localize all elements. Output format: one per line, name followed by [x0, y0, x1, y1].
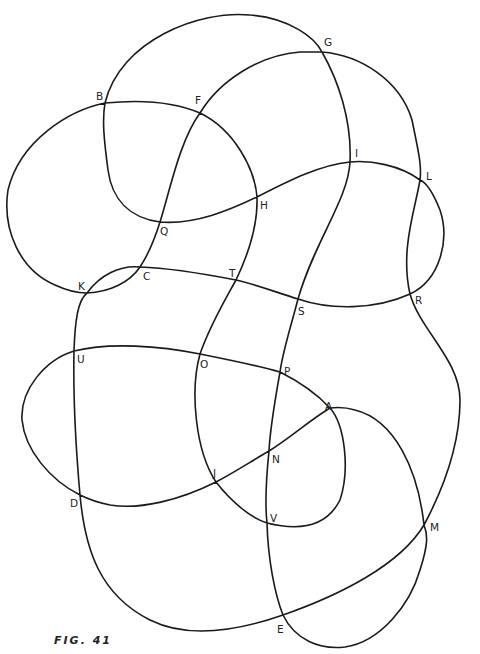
label-F: F: [195, 94, 201, 106]
label-C: C: [143, 270, 150, 282]
label-S: S: [298, 305, 305, 317]
label-O: O: [200, 358, 208, 370]
figure-caption: FIG. 41: [54, 634, 112, 647]
label-K: K: [78, 280, 86, 292]
label-N: N: [272, 453, 280, 465]
label-G: G: [324, 36, 332, 48]
label-R: R: [415, 294, 422, 306]
label-V: V: [270, 512, 278, 524]
closed-curve: [7, 14, 460, 647]
label-D: D: [70, 497, 78, 509]
label-U: U: [77, 353, 85, 365]
label-M: M: [430, 521, 439, 533]
label-L: L: [426, 170, 432, 182]
knot-diagram: B F G I L H Q K C T S R U O P A N J D V …: [0, 0, 480, 654]
label-A: A: [325, 400, 333, 412]
label-Q: Q: [160, 225, 168, 237]
label-T: T: [228, 267, 236, 279]
label-P: P: [284, 365, 290, 377]
label-J: J: [212, 467, 216, 479]
label-B: B: [96, 90, 103, 102]
label-E: E: [277, 623, 284, 635]
label-H: H: [260, 199, 268, 211]
label-I: I: [355, 147, 358, 159]
crossing-labels: B F G I L H Q K C T S R U O P A N J D V …: [70, 36, 439, 635]
